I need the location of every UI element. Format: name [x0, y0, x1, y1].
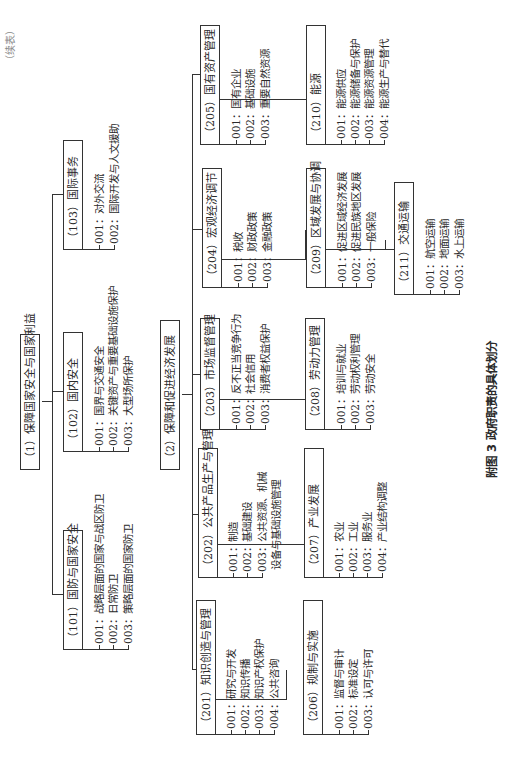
node-209-regional-development: （209）区域发展与协调: [306, 168, 326, 288]
node-208-labor: （208）劳动力管理: [305, 318, 325, 430]
node-202-public-goods: （202）公共产品生产与管理: [198, 448, 218, 578]
item-text: 004：产业结构调整: [375, 482, 389, 572]
item-text: 003：水上运输: [452, 219, 466, 289]
node-204-macro-regulation: （204）宏观经济调节: [202, 168, 222, 288]
item-text: 001：能源供应: [334, 69, 348, 139]
connector: [52, 594, 63, 595]
connector: [192, 229, 202, 230]
item-text: 003：能源资源管理: [362, 49, 376, 139]
item-text: 002：地面运输: [437, 219, 451, 289]
connector: [52, 391, 63, 392]
node-205-state-assets: （205）国有资产管理: [200, 25, 220, 145]
item-text: 003：公共资源、机械: [255, 472, 269, 572]
item-text: 003：一般保险: [364, 212, 378, 282]
connector: [286, 670, 287, 700]
org-chart-diagram: （续表） （1）保障国家安全与国家利益 （2）保障和促进经济发展 （101）国防…: [0, 0, 514, 760]
node-103-international-affairs: （103）国际事务: [63, 140, 83, 250]
item-text: 001：研究与开发: [224, 649, 238, 729]
node-101-defense: （101）国防与国家安全: [63, 530, 83, 650]
item-text: 001：国有企业: [229, 69, 243, 139]
connector: [42, 401, 52, 402]
item-text: 001：对外交流: [92, 174, 106, 244]
node-210-energy: （210）能源: [306, 25, 326, 145]
item-text: 002：关键资产与重要基础设施保护: [106, 286, 120, 446]
item-text: 004：能源生产与替代: [377, 39, 391, 139]
item-text: 002：劳动权利管理: [348, 334, 362, 424]
node-211-transport: （211）交通运输: [394, 182, 414, 295]
item-text: 003：大型场所保护: [121, 356, 135, 446]
item-text: 002：能源储备与保护: [348, 39, 362, 139]
item-text: 001：农业: [332, 522, 346, 572]
item-text: 002：基础设施: [243, 69, 257, 139]
item-text: 003：知识产权保护: [252, 639, 266, 729]
node-2-economic-development: （2）保障和促进经济发展: [160, 320, 180, 470]
connector: [182, 394, 192, 395]
connector: [52, 194, 63, 195]
item-text: 002：基础建设: [240, 502, 254, 572]
node-207-industry: （207）产业发展: [304, 448, 324, 578]
connector: [52, 195, 53, 595]
continued-note: （续表）: [2, 25, 17, 65]
item-text: 003：服务业: [360, 512, 374, 572]
item-text: 设备与基础设施管理: [269, 480, 283, 570]
item-text: 003：金融政策: [260, 212, 274, 282]
item-text: 002：社会信用: [243, 354, 257, 424]
item-text: 001：监督与审计: [332, 649, 346, 729]
node-1-national-security: （1）保障国家安全与国家利益: [20, 334, 40, 470]
node-206-regulation: （206）规制与实施: [303, 600, 323, 735]
item-text: 004：公共咨询: [267, 659, 281, 729]
item-text: 002：促进民族地区发展: [349, 172, 363, 282]
connector: [192, 74, 200, 75]
node-201-knowledge: （201）知识创造与管理: [196, 600, 216, 735]
item-text: 002：标准设定: [346, 659, 360, 729]
connector: [385, 240, 386, 250]
connector: [192, 374, 200, 375]
item-text: 003：劳动安全: [363, 354, 377, 424]
item-text: 001：培训与就业: [334, 344, 348, 424]
item-text: 003：策略层面的国家防卫: [121, 524, 135, 644]
item-text: 003：认可与许可: [361, 649, 375, 729]
item-text: 002：工业: [346, 522, 360, 572]
figure-caption: 附图 3 政府职责的具体划分: [483, 341, 499, 478]
item-text: 001：反不正当竞争行为: [229, 314, 243, 424]
item-text: 002：知识传播: [238, 659, 252, 729]
node-203-market-supervision: （203）市场监督管理: [200, 318, 220, 430]
item-text: 002：国际开发与人文援助: [107, 124, 121, 244]
item-text: 001：制造: [226, 522, 240, 572]
item-text: 002：日常防卫: [106, 574, 120, 644]
item-text: 003：消费者权益保护: [258, 324, 272, 424]
item-text: 001：税收: [231, 232, 245, 282]
item-text: 003：重要自然资源: [258, 49, 272, 139]
node-102-domestic-security: （102）国内安全: [63, 332, 83, 452]
item-text: 001：促进区域经济发展: [335, 172, 349, 282]
item-text: 002：财政政策: [245, 212, 259, 282]
item-text: 001：国界与交通安全: [92, 346, 106, 446]
item-text: 001：航空运输: [423, 219, 437, 289]
item-text: 001：战略层面的国家与战区防卫: [92, 494, 106, 644]
connector: [192, 75, 193, 670]
